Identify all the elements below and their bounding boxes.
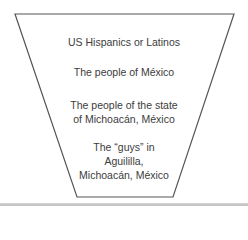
funnel-level-3-line-1: The people of the state bbox=[0, 98, 248, 112]
funnel-level-4: The “guys” in Aguililla, Michoacán, Méxi… bbox=[0, 140, 248, 182]
funnel-level-4-line-3: Michoacán, México bbox=[0, 168, 248, 182]
funnel-level-1: US Hispanics or Latinos bbox=[0, 35, 248, 49]
funnel-level-3-line-2: of Michoacán, México bbox=[0, 112, 248, 126]
funnel-level-1-line-1: US Hispanics or Latinos bbox=[0, 35, 248, 49]
funnel-level-3: The people of the state of Michoacán, Mé… bbox=[0, 98, 248, 126]
funnel-level-4-line-2: Aguililla, bbox=[0, 154, 248, 168]
funnel-level-4-line-1: The “guys” in bbox=[0, 140, 248, 154]
bottom-divider bbox=[0, 203, 248, 206]
funnel-level-2-line-1: The people of México bbox=[0, 65, 248, 79]
funnel-level-2: The people of México bbox=[0, 65, 248, 79]
